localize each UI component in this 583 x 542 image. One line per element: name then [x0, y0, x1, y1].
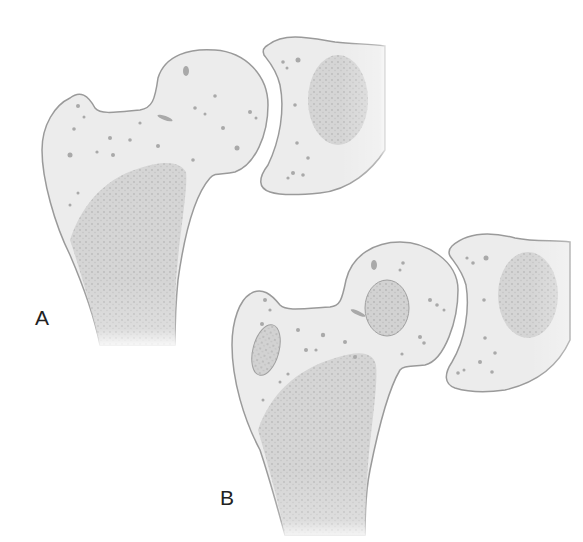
illustration	[0, 0, 583, 542]
panel-label-a: A	[35, 306, 49, 330]
panel-b-femur	[232, 242, 458, 542]
panel-a-acetabulum	[261, 30, 390, 200]
panel-label-b: B	[220, 486, 234, 510]
panel-b-acetabulum	[446, 225, 583, 400]
panel-a-femur	[42, 50, 268, 350]
